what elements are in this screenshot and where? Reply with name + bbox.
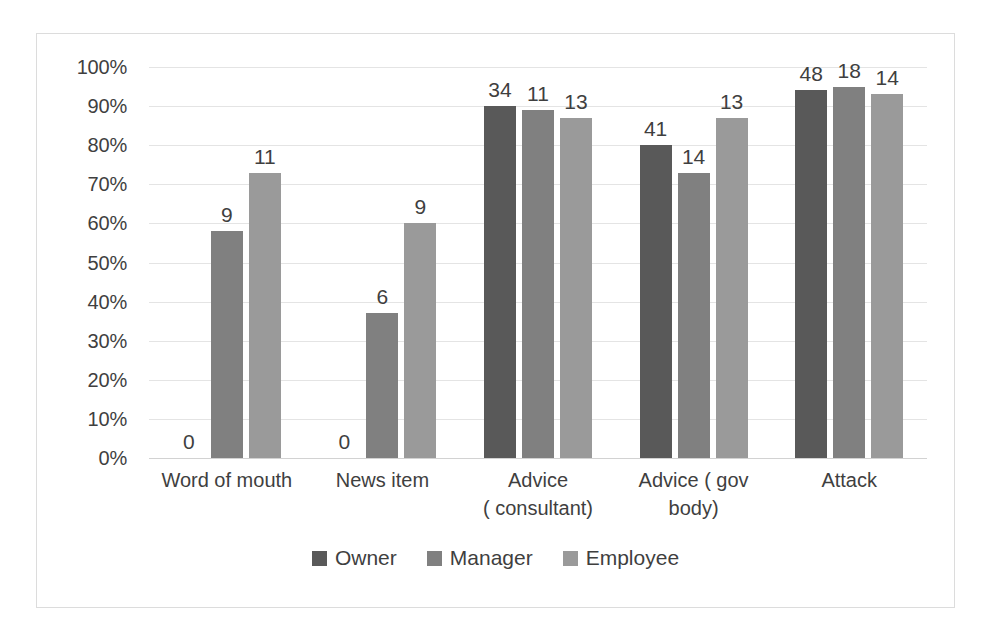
bar-data-label: 0	[183, 431, 195, 452]
bar-slot: 13	[560, 67, 592, 458]
y-axis-tick-label: 70%	[88, 173, 127, 196]
bar-data-label: 11	[527, 83, 549, 104]
bar-data-label: 34	[488, 79, 511, 100]
bar-slot: 6	[366, 67, 398, 458]
legend-swatch-icon	[312, 551, 327, 566]
bar-group: 481814	[771, 67, 927, 458]
bar-slot: 9	[211, 67, 243, 458]
bar-employee[interactable]	[871, 94, 903, 458]
bar-data-label: 13	[720, 91, 743, 112]
bar-group: 0911	[149, 67, 305, 458]
y-axis: 100%90%80%70%60%50%40%30%20%10%0%	[37, 67, 137, 458]
y-axis-tick-label: 0%	[98, 447, 127, 470]
x-axis-tick-label: Advice ( gov body)	[616, 466, 772, 522]
bar-owner[interactable]	[640, 145, 672, 458]
y-axis-tick-label: 10%	[88, 407, 127, 430]
bar-group: 069	[305, 67, 461, 458]
y-axis-tick-label: 90%	[88, 95, 127, 118]
bar-slot: 18	[833, 67, 865, 458]
bar-data-label: 48	[800, 63, 823, 84]
bar-slot: 0	[328, 67, 360, 458]
bar-employee[interactable]	[404, 223, 436, 458]
bar-manager[interactable]	[211, 231, 243, 458]
bar-employee[interactable]	[249, 173, 281, 458]
y-axis-tick-label: 80%	[88, 134, 127, 157]
bar-manager[interactable]	[678, 173, 710, 458]
bar-manager[interactable]	[522, 110, 554, 458]
y-axis-tick-label: 60%	[88, 212, 127, 235]
bar-slot: 0	[173, 67, 205, 458]
bar-data-label: 14	[682, 146, 705, 167]
bar-data-label: 9	[415, 196, 427, 217]
bar-data-label: 9	[221, 204, 233, 225]
bar-manager[interactable]	[366, 313, 398, 458]
bar-employee[interactable]	[716, 118, 748, 458]
y-axis-tick-label: 30%	[88, 329, 127, 352]
gridline	[149, 458, 927, 459]
legend-item-owner[interactable]: Owner	[312, 546, 397, 570]
legend-swatch-icon	[427, 551, 442, 566]
bar-group: 341113	[460, 67, 616, 458]
legend-label: Manager	[450, 546, 533, 570]
chart-frame: 100%90%80%70%60%50%40%30%20%10%0% 091106…	[36, 33, 955, 608]
y-axis-tick-label: 40%	[88, 290, 127, 313]
legend-swatch-icon	[563, 551, 578, 566]
bar-slot: 13	[716, 67, 748, 458]
plot-area: 0911069341113411413481814	[149, 67, 927, 458]
y-axis-tick-label: 100%	[77, 56, 127, 79]
legend-label: Owner	[335, 546, 397, 570]
bar-manager[interactable]	[833, 87, 865, 458]
bar-employee[interactable]	[560, 118, 592, 458]
bar-data-label: 6	[377, 286, 389, 307]
bar-data-label: 41	[644, 118, 667, 139]
bar-slot: 41	[640, 67, 672, 458]
bar-slot: 11	[249, 67, 281, 458]
bar-slot: 9	[404, 67, 436, 458]
bar-slot: 48	[795, 67, 827, 458]
bar-data-label: 11	[254, 146, 276, 167]
bar-group: 411413	[616, 67, 772, 458]
legend-label: Employee	[586, 546, 679, 570]
x-axis-tick-label: Attack	[771, 466, 927, 494]
y-axis-tick-label: 50%	[88, 251, 127, 274]
bar-data-label: 18	[838, 60, 861, 81]
bar-slot: 14	[871, 67, 903, 458]
x-axis-tick-label: News item	[305, 466, 461, 494]
bar-data-label: 0	[339, 431, 351, 452]
bar-data-label: 14	[876, 67, 899, 88]
legend-item-manager[interactable]: Manager	[427, 546, 533, 570]
bar-data-label: 13	[564, 91, 587, 112]
bar-slot: 14	[678, 67, 710, 458]
x-axis-tick-label: Advice ( consultant)	[460, 466, 616, 522]
bar-owner[interactable]	[484, 106, 516, 458]
bar-slot: 34	[484, 67, 516, 458]
chart-legend: OwnerManagerEmployee	[37, 546, 954, 570]
bar-owner[interactable]	[795, 90, 827, 458]
legend-item-employee[interactable]: Employee	[563, 546, 679, 570]
y-axis-tick-label: 20%	[88, 368, 127, 391]
bar-slot: 11	[522, 67, 554, 458]
x-axis-tick-label: Word of mouth	[149, 466, 305, 494]
x-axis: Word of mouthNews itemAdvice ( consultan…	[149, 466, 927, 546]
